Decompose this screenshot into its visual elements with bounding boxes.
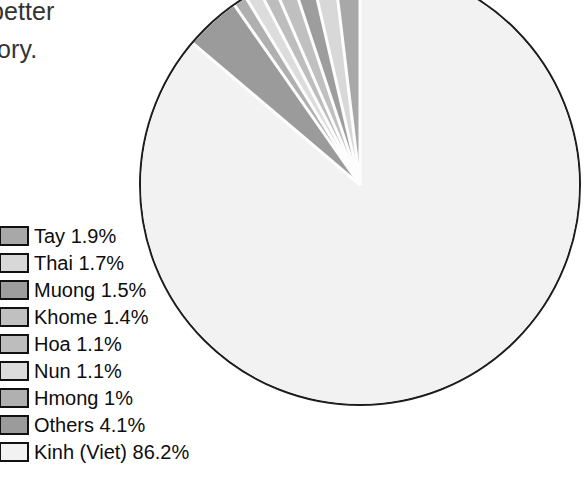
legend-swatch [0, 280, 29, 300]
legend-label: Others 4.1% [34, 415, 145, 435]
legend-label: Tay 1.9% [34, 226, 116, 246]
legend-label: Muong 1.5% [34, 280, 146, 300]
legend-label: Hoa 1.1% [34, 334, 122, 354]
legend-label: Kinh (Viet) 86.2% [34, 442, 189, 462]
legend-item-tay[interactable]: Tay 1.9% [0, 222, 215, 249]
legend-swatch [0, 253, 29, 273]
legend-swatch [0, 361, 29, 381]
cutoff-line-1: better [0, 0, 130, 30]
cutoff-line-2: tory. [0, 30, 130, 68]
legend-swatch [0, 334, 29, 354]
legend-label: Thai 1.7% [34, 253, 124, 273]
legend-label: Khome 1.4% [34, 307, 149, 327]
legend-swatch [0, 442, 29, 462]
pie-slice-separator [359, 0, 362, 185]
cutoff-body-text: better tory. [0, 0, 130, 68]
legend-item-hoa[interactable]: Hoa 1.1% [0, 330, 215, 357]
chart-legend: Tay 1.9%Thai 1.7%Muong 1.5%Khome 1.4%Hoa… [0, 222, 215, 465]
legend-swatch [0, 415, 29, 435]
legend-item-hmong[interactable]: Hmong 1% [0, 384, 215, 411]
legend-item-nun[interactable]: Nun 1.1% [0, 357, 215, 384]
legend-swatch [0, 307, 29, 327]
legend-swatch [0, 388, 29, 408]
legend-item-thai[interactable]: Thai 1.7% [0, 249, 215, 276]
legend-swatch [0, 226, 29, 246]
legend-item-khome[interactable]: Khome 1.4% [0, 303, 215, 330]
legend-item-muong[interactable]: Muong 1.5% [0, 276, 215, 303]
legend-label: Hmong 1% [34, 388, 133, 408]
legend-label: Nun 1.1% [34, 361, 122, 381]
legend-item-kinh-viet[interactable]: Kinh (Viet) 86.2% [0, 438, 215, 465]
legend-item-others[interactable]: Others 4.1% [0, 411, 215, 438]
